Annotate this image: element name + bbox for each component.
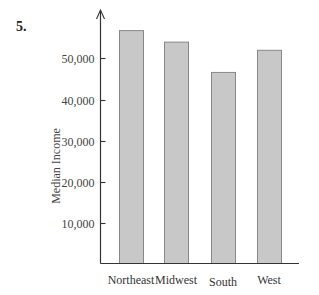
bar-south xyxy=(212,72,236,263)
x-category-label: South xyxy=(209,275,237,289)
bars xyxy=(120,31,282,264)
bar-midwest xyxy=(165,42,189,263)
y-tick-label: 30,000 xyxy=(62,135,95,149)
y-tick-label: 40,000 xyxy=(62,94,95,108)
x-category-label: West xyxy=(257,273,281,287)
x-category-label: Midwest xyxy=(155,273,198,287)
x-axis-labels: NortheastMidwestSouthWest xyxy=(108,273,282,289)
x-category-label: Northeast xyxy=(108,273,155,287)
y-tick-label: 20,000 xyxy=(62,176,95,190)
y-axis-ticks: 10,00020,00030,00040,00050,000 xyxy=(62,52,106,231)
bar-west xyxy=(258,50,282,263)
bar-chart: Median Income 10,00020,00030,00040,00050… xyxy=(0,0,319,295)
y-tick-label: 10,000 xyxy=(62,217,95,231)
bar-northeast xyxy=(120,31,144,264)
y-tick-label: 50,000 xyxy=(62,52,95,66)
